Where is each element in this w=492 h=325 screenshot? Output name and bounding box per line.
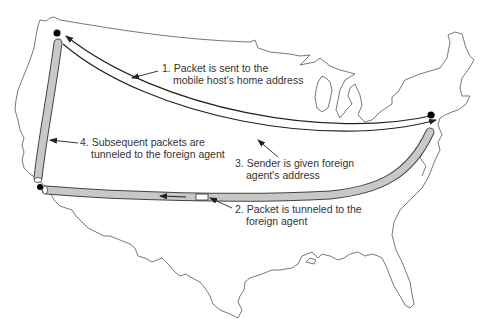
sender-node-dot [428, 112, 435, 119]
step4-label: 4. Subsequent packets are tunneled to th… [80, 137, 225, 160]
southern-border [45, 186, 238, 318]
packet-box [196, 194, 208, 200]
step4-line2: tunneled to the foreign agent [80, 149, 225, 161]
step3-line1: 3. Sender is given foreign [235, 158, 354, 170]
step3-label: 3. Sender is given foreign agent's addre… [235, 158, 354, 181]
home-node-dot [54, 30, 61, 37]
step2-label: 2. Packet is tunneled to the foreign age… [235, 204, 362, 227]
step1-label: 1. Packet is sent to the mobile host's h… [162, 63, 303, 86]
foreign-node-dot [37, 184, 43, 190]
step1-line1: 1. Packet is sent to the [162, 63, 303, 75]
lake-michigan [315, 76, 332, 112]
step2-line1: 2. Packet is tunneled to the [235, 204, 362, 216]
mobile-routing-diagram: 1. Packet is sent to the mobile host's h… [0, 0, 492, 325]
gulf-detail [306, 258, 316, 264]
step1-line2: mobile host's home address [162, 75, 303, 87]
tunnel-home-to-foreign-vertical [34, 43, 58, 183]
step4-line1: 4. Subsequent packets are [80, 137, 225, 149]
step2-line2: foreign agent [235, 216, 362, 228]
step3-line2: agent's address [235, 170, 354, 182]
